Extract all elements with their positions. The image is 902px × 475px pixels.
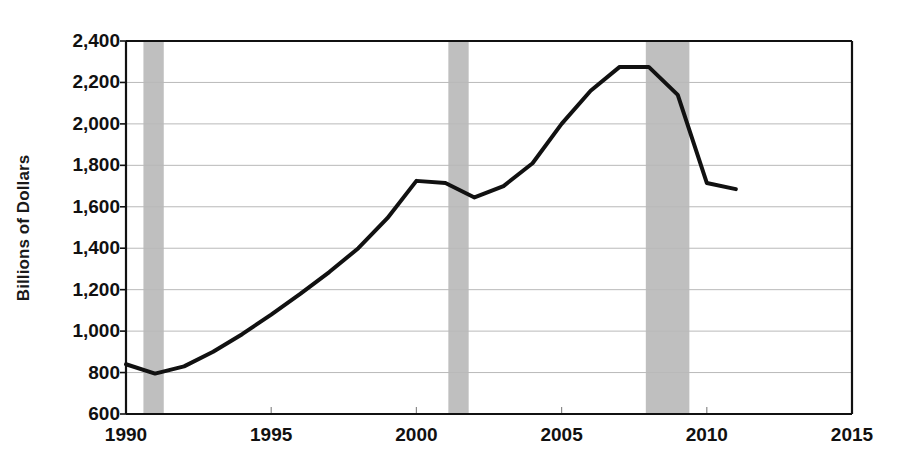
recession-1-band [143, 41, 163, 414]
recession-2-band [448, 41, 468, 414]
axis-frame [126, 41, 852, 414]
gridlines [126, 82, 852, 372]
series-line-0 [126, 67, 736, 374]
data-series [126, 67, 736, 374]
axis-tickmarks [120, 41, 707, 414]
plot-area [0, 0, 902, 475]
recession-bands [143, 41, 689, 414]
recession-3-band [646, 41, 690, 414]
chart-container: Billions of Dollars 2,4002,2002,0001,800… [0, 0, 902, 475]
